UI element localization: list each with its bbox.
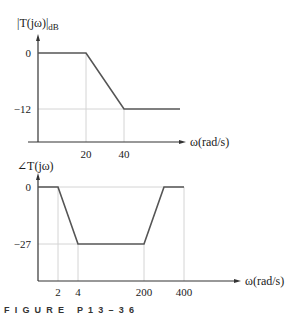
arrow-right-icon: [234, 279, 241, 283]
y-tick-0: 0: [26, 47, 32, 59]
arrow-up-icon: [36, 34, 40, 41]
x-axis-label: ω(rad/s): [190, 135, 229, 149]
x-tick-4: 4: [75, 286, 81, 298]
figure: |T(jω)|dB 0 −12 20 40 ω(rad/s) ∠T(jω) 0 …: [0, 0, 304, 320]
magnitude-plot: |T(jω)|dB 0 −12 20 40 ω(rad/s): [14, 16, 229, 160]
x-tick-200: 200: [136, 286, 153, 298]
x-tick-40: 40: [119, 148, 131, 160]
x-axis-label: ω(rad/s): [245, 274, 284, 288]
y-axis-label: ∠T(jω): [17, 159, 54, 173]
phase-plot: ∠T(jω) 0 −27 2 4 200 400 ω(rad/s): [14, 159, 284, 298]
magnitude-line: [38, 53, 180, 109]
y-tick-neg12: −12: [14, 103, 31, 115]
phase-line: [38, 187, 184, 244]
y-axis-label: |T(jω)|dB: [17, 16, 59, 32]
x-tick-400: 400: [176, 286, 193, 298]
arrow-up-icon: [36, 173, 40, 180]
y-tick-neg27: −27: [14, 238, 32, 250]
y-tick-0: 0: [26, 181, 32, 193]
x-tick-2: 2: [55, 286, 61, 298]
arrow-right-icon: [179, 140, 186, 144]
figure-caption: FIGURE P13–36: [4, 305, 139, 315]
x-tick-20: 20: [81, 148, 93, 160]
